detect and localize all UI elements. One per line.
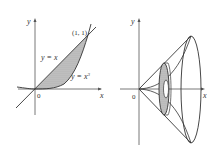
left-origin-label: 0 (37, 92, 41, 100)
right-y-label: y (130, 17, 135, 26)
left-y-arrow-icon (34, 18, 37, 22)
base-ellipse (181, 36, 201, 143)
line-label: y = x (40, 53, 58, 62)
right-origin-label: 0 (132, 93, 136, 101)
left-x-label: x (99, 91, 104, 100)
right-graph: y x 0 (120, 17, 207, 145)
line-y-equals-x (16, 27, 96, 108)
point-label: (1, 1) (72, 29, 88, 37)
figure-canvas: y x 0 (1, 1) y = x y = x3 y x 0 (0, 0, 217, 154)
right-x-label: x (202, 91, 207, 100)
left-graph: y x 0 (1, 1) y = x y = x3 (16, 17, 104, 115)
curve-label: y = x3 (70, 72, 91, 81)
left-y-label: y (26, 17, 31, 26)
right-y-arrow-icon (138, 18, 141, 22)
washer-inner (164, 80, 169, 98)
